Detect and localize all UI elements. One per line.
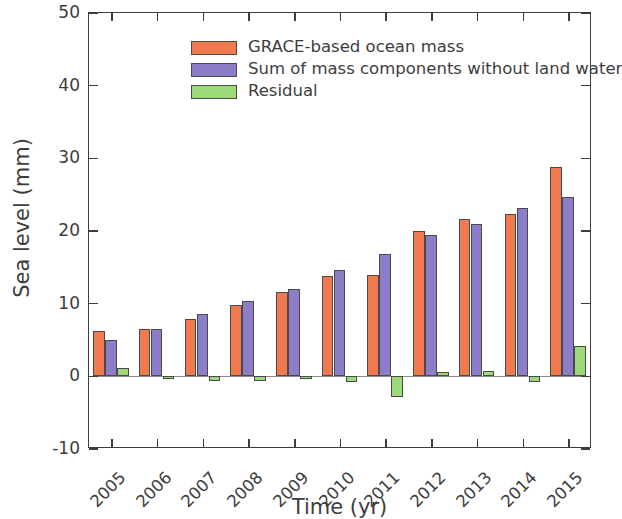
y-axis-tick-label: 0 xyxy=(18,365,80,385)
x-axis-tick-top xyxy=(111,12,113,21)
bar-2011-series-1 xyxy=(379,254,391,377)
y-axis-tick-label: 10 xyxy=(18,293,80,313)
y-axis-tick xyxy=(89,85,98,87)
y-axis-tick-label: 40 xyxy=(18,75,80,95)
bar-2015-series-2 xyxy=(574,346,586,377)
y-axis-tick-right xyxy=(581,303,590,305)
x-axis-tick xyxy=(203,439,205,448)
x-axis-tick xyxy=(477,439,479,448)
legend-item-grace: GRACE-based ocean mass xyxy=(191,37,622,58)
bar-2014-series-2 xyxy=(529,376,541,382)
bar-2010-series-1 xyxy=(334,270,346,376)
y-axis-tick xyxy=(89,158,98,160)
bar-2007-series-1 xyxy=(197,314,209,376)
bar-2009-series-2 xyxy=(300,376,312,379)
bar-2014-series-1 xyxy=(517,208,529,376)
x-axis-tick-top xyxy=(431,12,433,21)
bar-2011-series-0 xyxy=(367,275,379,376)
y-axis-tick xyxy=(89,376,98,378)
y-axis-tick xyxy=(89,12,98,14)
bar-2007-series-0 xyxy=(185,319,197,376)
x-axis-tick xyxy=(385,439,387,448)
x-axis-tick xyxy=(523,439,525,448)
y-axis-tick-label: -10 xyxy=(18,438,80,458)
bar-2009-series-0 xyxy=(276,292,288,376)
legend-item-residual: Residual xyxy=(191,81,622,102)
y-axis-tick-right xyxy=(581,376,590,378)
bar-2015-series-1 xyxy=(562,197,574,376)
legend-item-sum-components: Sum of mass components without land wate… xyxy=(191,59,622,80)
legend-swatch-sum-components xyxy=(191,63,237,77)
legend-label-residual: Residual xyxy=(248,83,318,100)
bar-2010-series-2 xyxy=(346,376,358,382)
bar-2008-series-0 xyxy=(230,305,242,376)
chart-legend: GRACE-based ocean mass Sum of mass compo… xyxy=(191,37,622,103)
bar-2007-series-2 xyxy=(209,376,221,381)
y-axis-tick-label: 50 xyxy=(18,2,80,22)
bar-2015-series-0 xyxy=(550,167,562,376)
bar-2012-series-1 xyxy=(425,235,437,376)
x-axis-tick-top xyxy=(340,12,342,21)
y-axis-tick-right xyxy=(581,85,590,87)
x-axis-tick xyxy=(111,439,113,448)
legend-swatch-residual xyxy=(191,85,237,99)
bar-2008-series-2 xyxy=(254,376,266,380)
x-axis-tick xyxy=(294,439,296,448)
bar-2006-series-0 xyxy=(139,329,151,376)
x-axis-tick-top xyxy=(157,12,159,21)
bar-2012-series-0 xyxy=(413,231,425,376)
y-axis-tick-right xyxy=(581,448,590,450)
x-axis-title: Time (yr) xyxy=(89,495,590,519)
legend-label-grace: GRACE-based ocean mass xyxy=(248,39,464,56)
y-axis-tick-label: 30 xyxy=(18,147,80,167)
bar-2009-series-1 xyxy=(288,289,300,376)
x-axis-tick xyxy=(248,439,250,448)
y-axis-tick-right xyxy=(581,230,590,232)
bar-2005-series-1 xyxy=(105,340,117,376)
bar-2014-series-0 xyxy=(505,214,517,376)
legend-swatch-grace xyxy=(191,41,237,55)
x-axis-tick xyxy=(340,439,342,448)
bar-2011-series-2 xyxy=(391,376,403,397)
x-axis-tick xyxy=(157,439,159,448)
x-axis-tick-top xyxy=(477,12,479,21)
bar-2006-series-1 xyxy=(151,329,163,376)
bar-2005-series-0 xyxy=(93,331,105,376)
bar-2010-series-0 xyxy=(322,276,334,376)
x-axis-tick-top xyxy=(568,12,570,21)
bar-2012-series-2 xyxy=(437,372,449,376)
bar-2013-series-0 xyxy=(459,219,471,376)
y-axis-tick-right xyxy=(581,158,590,160)
y-axis-tick-right xyxy=(581,12,590,14)
x-axis-tick xyxy=(568,439,570,448)
x-axis-tick xyxy=(431,439,433,448)
x-axis-tick-top xyxy=(523,12,525,21)
bar-2005-series-2 xyxy=(117,368,129,377)
bar-2006-series-2 xyxy=(163,376,175,378)
legend-label-sum-components: Sum of mass components without land wate… xyxy=(248,61,622,78)
x-axis-tick-top xyxy=(203,12,205,21)
bar-2013-series-2 xyxy=(483,371,495,377)
x-axis-tick-top xyxy=(294,12,296,21)
bar-2013-series-1 xyxy=(471,224,483,377)
y-axis-tick xyxy=(89,303,98,305)
y-axis-tick xyxy=(89,230,98,232)
plot-area: GRACE-based ocean mass Sum of mass compo… xyxy=(88,12,591,448)
y-axis-tick xyxy=(89,448,98,450)
bar-2008-series-1 xyxy=(242,301,254,377)
x-axis-tick-top xyxy=(385,12,387,21)
x-axis-tick-top xyxy=(248,12,250,21)
y-axis-tick-label: 20 xyxy=(18,220,80,240)
